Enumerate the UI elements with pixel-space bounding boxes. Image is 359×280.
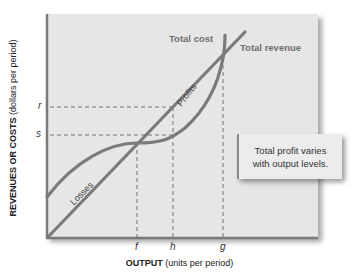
callout-line-2: with output levels. bbox=[239, 157, 342, 170]
tick-s: s bbox=[36, 128, 41, 139]
tick-h: h bbox=[170, 241, 176, 252]
total-cost-label: Total cost bbox=[169, 33, 213, 44]
total-revenue-line bbox=[48, 32, 245, 237]
y-axis-title-rest: (dollars per period) bbox=[8, 39, 18, 117]
tick-g: g bbox=[220, 241, 226, 252]
tick-f: f bbox=[135, 241, 138, 252]
tick-r: r bbox=[38, 100, 41, 111]
total-revenue-label: Total revenue bbox=[240, 42, 301, 53]
x-axis-title-bold: OUTPUT bbox=[126, 258, 163, 268]
x-axis-title-rest: (units per period) bbox=[163, 258, 234, 268]
y-axis-title-bold: REVENUES OR COSTS bbox=[8, 118, 18, 217]
total-cost-curve bbox=[47, 35, 225, 197]
profit-callout: Total profit varies with output levels. bbox=[237, 134, 342, 179]
callout-line-1: Total profit varies bbox=[239, 144, 342, 157]
x-axis-title: OUTPUT (units per period) bbox=[0, 258, 359, 268]
y-axis-title: REVENUES OR COSTS (dollars per period) bbox=[8, 39, 18, 216]
